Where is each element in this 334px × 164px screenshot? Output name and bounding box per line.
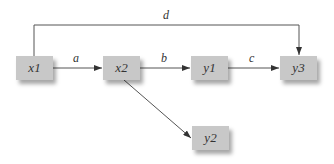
edge-label-a: a [73,51,79,66]
edges-layer [0,0,334,164]
node-y2[interactable]: y2 [192,126,229,150]
node-x2[interactable]: x2 [103,56,140,80]
edge-label-c: c [249,51,254,66]
node-x1[interactable]: x1 [16,56,53,80]
edge-label-d: d [163,8,169,23]
edge-label-b: b [161,51,167,66]
edge-x2-y2 [124,80,191,138]
node-y1[interactable]: y1 [191,56,228,80]
node-y3[interactable]: y3 [280,56,317,80]
